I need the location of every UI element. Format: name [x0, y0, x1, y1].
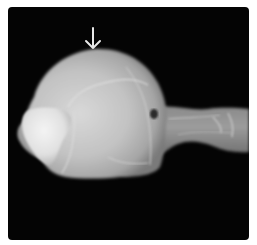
xray-image	[8, 7, 249, 240]
arrow-down-icon	[84, 27, 102, 51]
xray-panel	[8, 7, 249, 240]
